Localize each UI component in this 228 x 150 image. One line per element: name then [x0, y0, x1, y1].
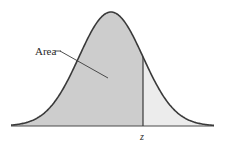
shaded-area-left-of-z [11, 12, 143, 126]
area-label: Area [35, 45, 56, 57]
shaded-area-right-of-z [143, 57, 214, 126]
z-label: z [139, 131, 144, 142]
normal-curve-diagram: Area z [0, 0, 228, 150]
